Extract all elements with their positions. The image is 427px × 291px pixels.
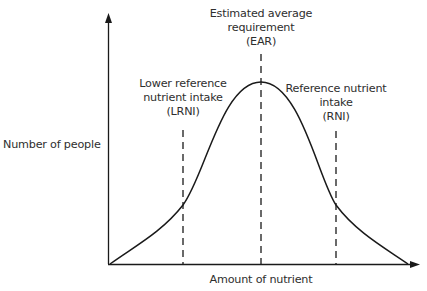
lrni-label-line-2: nutrient intake (130, 91, 236, 105)
ear-label-line-1: Estimated average (206, 7, 316, 21)
y-axis-label: Number of people (3, 138, 103, 152)
ear-label-line-2: requirement (206, 21, 316, 35)
x-axis-arrow-icon (410, 261, 420, 268)
x-axis-label: Amount of nutrient (201, 273, 321, 287)
ear-label-line-3: (EAR) (206, 35, 316, 49)
lrni-label-line-1: Lower reference (130, 77, 236, 91)
rni-label-line-1: Reference nutrient (280, 82, 392, 96)
ear-label: Estimated average requirement (EAR) (206, 7, 316, 49)
rni-label: Reference nutrient intake (RNI) (280, 82, 392, 124)
lrni-label-line-3: (LRNI) (130, 105, 236, 119)
lrni-label: Lower reference nutrient intake (LRNI) (130, 77, 236, 119)
y-axis-arrow-icon (105, 13, 112, 23)
rni-label-line-2: intake (280, 96, 392, 110)
rni-label-line-3: (RNI) (280, 110, 392, 124)
